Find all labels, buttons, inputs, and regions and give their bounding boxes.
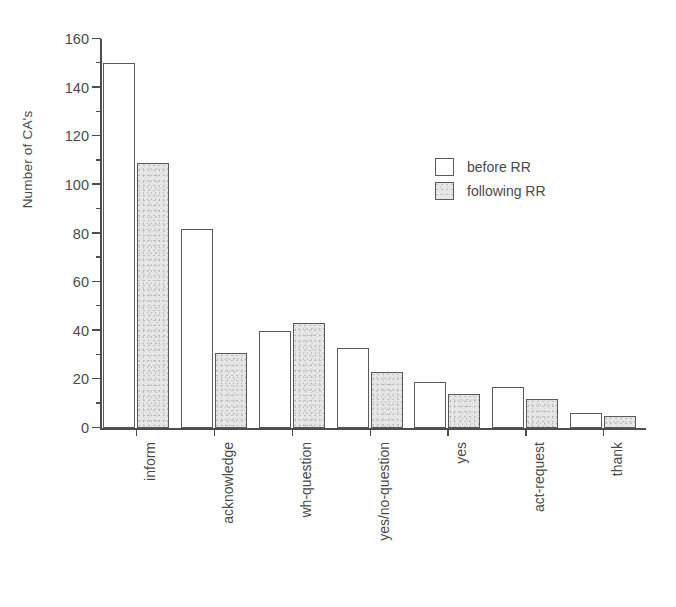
bar [371, 372, 403, 428]
x-axis-category-label: act-request [531, 442, 547, 512]
y-axis-line [100, 39, 102, 429]
plot-area: 020406080100120140160 informacknowledgew… [101, 39, 646, 428]
x-axis-category-label: yes [453, 442, 469, 464]
y-axis-tick-label: 20 [73, 371, 89, 387]
x-axis-category-label: inform [142, 442, 158, 481]
y-axis-tick-label: 120 [65, 128, 89, 144]
y-axis-major-tick [92, 281, 101, 282]
x-axis-tick [525, 428, 526, 436]
x-axis-tick [136, 428, 137, 436]
y-axis-minor-tick [96, 159, 101, 160]
y-axis-major-tick [92, 135, 101, 136]
y-axis-major-tick [92, 232, 101, 233]
y-axis-tick-label: 140 [65, 80, 89, 96]
legend-label: before RR [467, 159, 531, 175]
y-axis-tick-label: 0 [81, 420, 89, 436]
legend-swatch-following-icon [435, 182, 454, 200]
x-axis-tick [370, 428, 371, 436]
y-axis-minor-tick [96, 256, 101, 257]
x-axis-tick [214, 428, 215, 436]
bar [215, 353, 247, 428]
y-axis-major-tick [92, 378, 101, 379]
y-axis-major-tick [92, 38, 101, 39]
y-axis-title: Number of CA's [20, 75, 35, 245]
y-axis-tick-label: 40 [73, 323, 89, 339]
y-axis-major-tick [92, 427, 101, 428]
x-axis-category-label: wh-question [298, 442, 314, 518]
legend-swatch-before-icon [435, 158, 454, 176]
legend: before RR following RR [435, 155, 546, 203]
y-axis-tick-label: 100 [65, 177, 89, 193]
y-axis-minor-tick [96, 402, 101, 403]
x-axis-tick [447, 428, 448, 436]
legend-label: following RR [467, 183, 546, 199]
bar [492, 387, 524, 428]
x-axis-line [100, 428, 646, 430]
legend-item: before RR [435, 155, 546, 179]
bar [103, 63, 135, 428]
legend-item: following RR [435, 179, 546, 203]
bar [293, 323, 325, 428]
y-axis-tick-label: 80 [73, 226, 89, 242]
bar-chart: Number of CA's 020406080100120140160 inf… [0, 0, 676, 607]
y-axis-minor-tick [96, 354, 101, 355]
y-axis-major-tick [92, 183, 101, 184]
bar [259, 331, 291, 428]
bar [137, 163, 169, 428]
bar [604, 416, 636, 428]
x-axis-category-label: yes/no-question [376, 442, 392, 541]
y-axis-minor-tick [96, 62, 101, 63]
y-axis-major-tick [92, 329, 101, 330]
y-axis-minor-tick [96, 111, 101, 112]
y-axis-minor-tick [96, 305, 101, 306]
bar [181, 229, 213, 428]
y-axis-major-tick [92, 86, 101, 87]
x-axis-tick [292, 428, 293, 436]
bar [448, 394, 480, 428]
x-axis-category-label: thank [609, 442, 625, 476]
bar [414, 382, 446, 428]
x-axis-category-label: acknowledge [220, 442, 236, 524]
y-axis-minor-tick [96, 208, 101, 209]
y-axis-tick-label: 60 [73, 274, 89, 290]
y-axis-tick-label: 160 [65, 31, 89, 47]
bar [526, 399, 558, 428]
bar [337, 348, 369, 428]
x-axis-tick [603, 428, 604, 436]
bar [570, 413, 602, 428]
